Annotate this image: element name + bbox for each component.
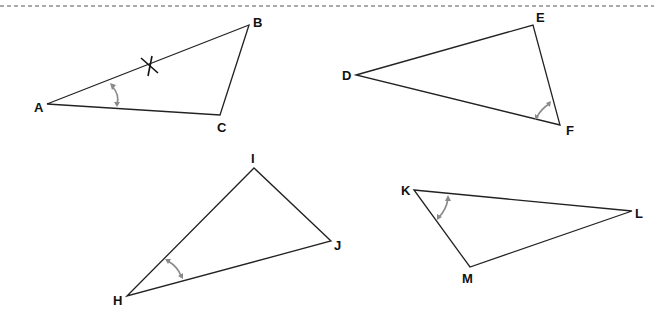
triangle-hij-edges [127,168,331,296]
vertex-label-c: C [217,120,227,135]
triangles-diagram: NOTE: Not drawn to scale A B C D E F [0,0,654,311]
vertex-label-k: K [401,183,411,198]
vertex-label-h: H [113,293,122,308]
triangle-abc: A B C [34,15,262,135]
vertex-label-f: F [566,123,574,138]
vertex-label-m: M [462,271,473,286]
vertex-label-a: A [34,100,44,115]
triangle-def-edges [356,25,560,125]
angle-arc-icon [165,259,183,279]
triangle-abc-edges [47,25,249,115]
vertex-label-i: I [251,151,255,166]
angle-arc-icon [535,101,551,120]
vertex-label-d: D [342,68,351,83]
triangle-def: D E F [342,10,574,138]
angle-arc-icon [110,83,120,107]
note-text: NOTE: Not drawn to scale [135,0,263,1]
triangle-klm: K L M [401,183,643,286]
vertex-label-e: E [536,10,545,25]
vertex-label-j: J [334,238,341,253]
triangle-hij: H I J [113,151,341,308]
vertex-label-b: B [253,15,262,30]
vertex-label-l: L [635,206,643,221]
angle-arc-icon [437,195,451,220]
